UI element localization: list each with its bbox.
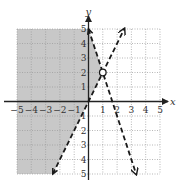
x-tick-label: −2 [53,105,66,115]
y-tick-label: 3 [81,140,87,150]
coordinate-plane: xy −5−4−3−2−1123455432112345 [0,0,180,187]
y-tick-label: 5 [81,24,87,34]
y-tick-label: 1 [81,82,87,92]
y-tick-label: 4 [81,39,87,49]
x-tick-label: −4 [25,105,39,115]
x-tick-label: 5 [157,105,163,115]
y-tick-label: 4 [81,155,87,165]
x-axis-label: x [170,96,176,107]
x-tick-label: −5 [10,105,24,115]
y-tick-label: 1 [81,111,87,121]
x-tick-label: −1 [68,105,81,115]
x-tick-label: 4 [143,105,149,115]
x-tick-label: 3 [129,105,135,115]
annotations [100,69,107,76]
y-axis-label: y [85,6,92,17]
x-tick-label: 1 [100,105,106,115]
open-circle-intersection [100,69,107,76]
y-tick-label: 3 [81,53,87,63]
x-tick-label: 2 [114,105,120,115]
x-tick-label: −3 [39,105,53,115]
y-tick-label: 2 [81,68,87,78]
y-tick-label: 2 [81,126,87,136]
y-tick-label: 5 [81,169,87,179]
